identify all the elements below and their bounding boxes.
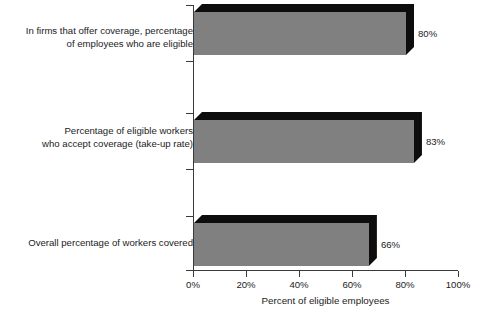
bar-value-label-2: 66% [381,239,400,251]
x-axis-tick [299,271,300,277]
bar-front-face-1 [194,120,414,163]
x-axis-tick [352,271,353,277]
x-axis-title: Percent of eligible employees [193,295,458,306]
category-label-1: Percentage of eligible workers who accep… [8,125,193,150]
bar-front-face-0 [194,12,406,55]
bar-side-face-2 [369,215,377,266]
category-label-0: In firms that offer coverage, percentage… [8,25,193,50]
x-axis-tick-label: 100% [446,279,471,291]
x-axis-tick [405,271,406,277]
category-label-2: Overall percentage of workers covered [8,237,193,250]
bar-side-face-1 [414,112,422,163]
y-axis-tick [186,61,193,62]
x-axis-tick-label: 40% [289,279,308,291]
y-axis-tick [186,5,193,6]
y-axis-tick [186,270,193,271]
x-axis-tick-label: 80% [395,279,414,291]
x-axis-line [193,270,458,271]
y-axis-tick [186,216,193,217]
bar-top-face-0 [194,4,414,12]
bar-top-face-1 [194,112,422,120]
x-axis-tick [246,271,247,277]
x-axis-tick [458,271,459,277]
bar-side-face-0 [406,4,414,55]
bar-front-face-2 [194,223,369,266]
bar-chart: In firms that offer coverage, percentage… [0,0,482,319]
bar-value-label-0: 80% [418,28,437,40]
x-axis-tick-label: 0% [186,279,200,291]
x-axis-tick-label: 60% [342,279,361,291]
x-axis-tick [193,271,194,277]
x-axis-tick-label: 20% [236,279,255,291]
bar-top-face-2 [194,215,377,223]
y-axis-tick [186,113,193,114]
y-axis-tick [186,169,193,170]
bar-value-label-1: 83% [426,136,445,148]
